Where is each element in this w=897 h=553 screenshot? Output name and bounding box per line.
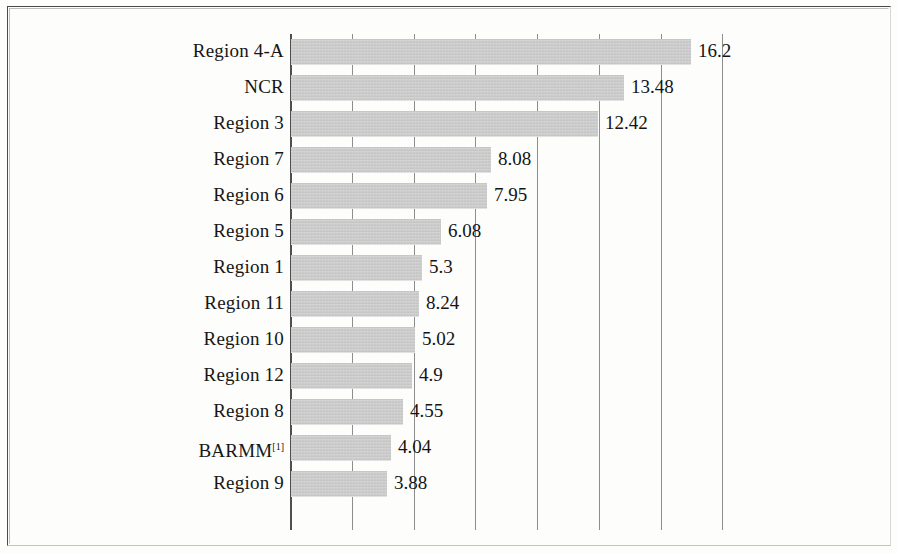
category-label: Region 4-A (193, 34, 284, 70)
bar-row: Region 312.42 (0, 106, 897, 142)
chart-figure: Region 4-A16.2NCR13.48Region 312.42Regio… (0, 0, 897, 553)
bar (291, 147, 491, 173)
category-label: NCR (244, 70, 284, 106)
bar (291, 363, 412, 389)
bar-value-label: 5.02 (415, 322, 455, 358)
category-label: Region 3 (213, 106, 284, 142)
bar-value-label: 13.48 (624, 70, 674, 106)
bar (291, 255, 422, 281)
bar-value-label: 16.2 (691, 34, 731, 70)
category-label: Region 1 (213, 250, 284, 286)
bar-value-label: 5.3 (422, 250, 453, 286)
category-label: Region 9 (213, 466, 284, 502)
category-label: Region 7 (213, 142, 284, 178)
bar (291, 327, 415, 353)
bar (291, 435, 391, 461)
bar-row: Region 118.24 (0, 286, 897, 322)
category-label: Region 11 (204, 286, 284, 322)
bar-value-label: 7.95 (487, 178, 527, 214)
bar-value-label: 4.04 (391, 430, 431, 466)
bar (291, 111, 598, 137)
category-label: Region 5 (213, 214, 284, 250)
plot-area: Region 4-A16.2NCR13.48Region 312.42Regio… (0, 0, 897, 553)
bar (291, 183, 487, 209)
bar-row: Region 67.95 (0, 178, 897, 214)
bar-row: Region 78.08 (0, 142, 897, 178)
footnote-marker: [1] (272, 441, 284, 452)
category-label: Region 12 (204, 358, 284, 394)
bar-row: Region 124.9 (0, 358, 897, 394)
bar-row: Region 93.88 (0, 466, 897, 502)
bar (291, 39, 691, 65)
bar-rows: Region 4-A16.2NCR13.48Region 312.42Regio… (0, 34, 897, 502)
bar (291, 75, 624, 101)
bar (291, 291, 419, 317)
bar-row: NCR13.48 (0, 70, 897, 106)
category-label: Region 10 (204, 322, 284, 358)
bar-row: BARMM[1]4.04 (0, 430, 897, 466)
bar (291, 219, 441, 245)
category-label: Region 6 (213, 178, 284, 214)
bar-value-label: 4.55 (403, 394, 443, 430)
category-label: Region 8 (213, 394, 284, 430)
bar (291, 399, 403, 425)
bar-value-label: 6.08 (441, 214, 481, 250)
category-label: BARMM[1] (198, 430, 284, 466)
bar-row: Region 15.3 (0, 250, 897, 286)
bar-value-label: 8.08 (491, 142, 531, 178)
bar-value-label: 8.24 (419, 286, 459, 322)
bar-row: Region 105.02 (0, 322, 897, 358)
bar-row: Region 56.08 (0, 214, 897, 250)
bar-value-label: 12.42 (598, 106, 648, 142)
bar (291, 471, 387, 497)
bar-value-label: 3.88 (387, 466, 427, 502)
bar-row: Region 4-A16.2 (0, 34, 897, 70)
bar-row: Region 84.55 (0, 394, 897, 430)
bar-value-label: 4.9 (412, 358, 443, 394)
